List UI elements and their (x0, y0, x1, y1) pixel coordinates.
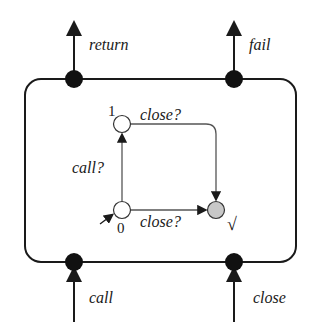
fail-port (225, 70, 243, 88)
transition-label-close-top: close? (140, 107, 181, 123)
return-port (65, 70, 83, 88)
state-0-label: 0 (117, 221, 125, 236)
state-1-label: 1 (108, 104, 116, 119)
close-label: close (253, 290, 286, 306)
call-label: call (89, 290, 113, 306)
state-0 (114, 202, 131, 219)
close-port (225, 253, 243, 271)
state-final (208, 202, 225, 219)
state-1 (114, 116, 131, 133)
fail-label: fail (249, 37, 270, 53)
initial-state-arrow (100, 215, 112, 224)
transition-label-call: call? (72, 160, 104, 176)
return-label: return (89, 37, 128, 53)
transition-label-close-bottom: close? (140, 214, 181, 230)
accepting-mark: √ (227, 215, 237, 233)
transition-1-to-final (131, 124, 216, 199)
call-port (65, 253, 83, 271)
